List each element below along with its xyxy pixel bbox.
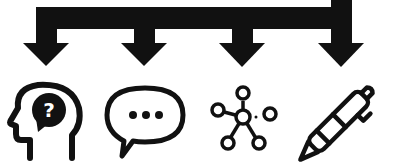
pen-icon xyxy=(294,83,383,166)
horizontal-bar xyxy=(36,7,352,29)
arrow-down-icon-4 xyxy=(318,43,364,67)
dot-3 xyxy=(155,111,163,119)
svg-text:?: ? xyxy=(43,98,55,122)
arrow-down-icon-3 xyxy=(219,43,265,67)
stem-2 xyxy=(134,20,155,44)
stem-1 xyxy=(36,7,57,44)
dot-2 xyxy=(142,111,150,119)
head-question-icon: ? xyxy=(10,85,80,158)
speech-bubble-icon xyxy=(107,88,183,156)
arrow-down-icon-2 xyxy=(121,43,167,66)
branch-connector xyxy=(23,0,364,67)
arrow-down-icon-1 xyxy=(23,43,69,66)
network-nodes-icon xyxy=(212,87,276,149)
stem-3 xyxy=(232,20,253,44)
diagram-canvas: ? xyxy=(0,0,393,166)
dot-1 xyxy=(129,111,137,119)
